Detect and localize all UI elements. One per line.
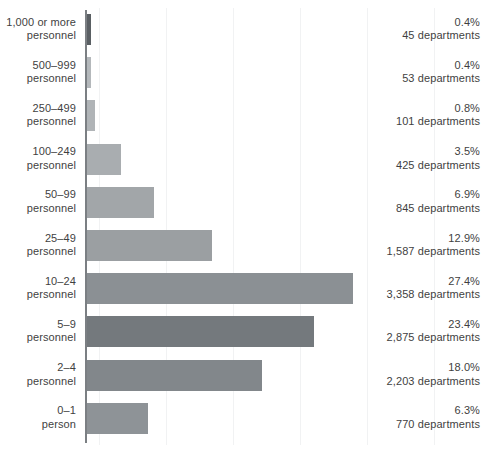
bar-row: 5–9personnel23.4%2,875 departments xyxy=(0,316,486,359)
bar-row: 2–4personnel18.0%2,203 departments xyxy=(0,360,486,403)
bar xyxy=(87,273,353,304)
category-label-line2: person xyxy=(0,418,76,432)
value-label: 27.4%3,358 departments xyxy=(387,275,480,302)
value-percent: 3.5% xyxy=(455,145,480,157)
category-label-line1: 1,000 or more xyxy=(6,16,76,28)
category-label-line2: personnel xyxy=(0,29,76,43)
category-label-line1: 25–49 xyxy=(45,232,76,244)
bar xyxy=(87,187,154,218)
value-percent: 12.9% xyxy=(448,232,480,244)
value-count: 845 departments xyxy=(396,202,480,216)
value-label: 0.8%101 departments xyxy=(396,102,480,129)
category-label-line2: personnel xyxy=(0,331,76,345)
category-label: 250–499personnel xyxy=(0,102,76,129)
category-label: 100–249personnel xyxy=(0,145,76,172)
value-percent: 0.4% xyxy=(455,16,480,28)
bar-row: 100–249personnel3.5%425 departments xyxy=(0,144,486,187)
value-percent: 0.8% xyxy=(455,102,480,114)
horizontal-bar-chart: 1,000 or morepersonnel0.4%45 departments… xyxy=(0,0,486,453)
bar-row: 10–24personnel27.4%3,358 departments xyxy=(0,273,486,316)
value-count: 45 departments xyxy=(402,29,480,43)
value-count: 101 departments xyxy=(396,115,480,129)
bar xyxy=(87,230,212,261)
value-label: 18.0%2,203 departments xyxy=(387,361,480,388)
value-count: 2,875 departments xyxy=(387,331,480,345)
value-count: 770 departments xyxy=(396,418,480,432)
category-label-line1: 0–1 xyxy=(57,404,76,416)
value-percent: 23.4% xyxy=(448,318,480,330)
value-count: 425 departments xyxy=(396,159,480,173)
category-label-line1: 250–499 xyxy=(32,102,76,114)
bar-rows: 1,000 or morepersonnel0.4%45 departments… xyxy=(0,0,486,453)
category-label: 25–49personnel xyxy=(0,232,76,259)
value-count: 2,203 departments xyxy=(387,375,480,389)
category-label: 1,000 or morepersonnel xyxy=(0,16,76,43)
value-count: 3,358 departments xyxy=(387,288,480,302)
category-label: 10–24personnel xyxy=(0,275,76,302)
category-label-line1: 500–999 xyxy=(32,59,76,71)
bar xyxy=(87,14,91,45)
value-label: 6.9%845 departments xyxy=(396,188,480,215)
category-label-line1: 50–99 xyxy=(45,188,76,200)
category-label: 50–99personnel xyxy=(0,188,76,215)
bar xyxy=(87,144,121,175)
value-label: 23.4%2,875 departments xyxy=(387,318,480,345)
value-label: 12.9%1,587 departments xyxy=(387,232,480,259)
value-count: 1,587 departments xyxy=(387,245,480,259)
bar xyxy=(87,360,262,391)
bar-row: 50–99personnel6.9%845 departments xyxy=(0,187,486,230)
category-label-line1: 2–4 xyxy=(57,361,76,373)
value-label: 0.4%53 departments xyxy=(402,59,480,86)
category-label-line2: personnel xyxy=(0,375,76,389)
bar xyxy=(87,57,91,88)
value-label: 6.3%770 departments xyxy=(396,404,480,431)
bar-row: 0–1person6.3%770 departments xyxy=(0,403,486,446)
bar-row: 1,000 or morepersonnel0.4%45 departments xyxy=(0,14,486,57)
bar-row: 250–499personnel0.8%101 departments xyxy=(0,100,486,143)
category-label: 0–1person xyxy=(0,404,76,431)
bar-row: 500–999personnel0.4%53 departments xyxy=(0,57,486,100)
category-label: 2–4personnel xyxy=(0,361,76,388)
category-label-line2: personnel xyxy=(0,288,76,302)
category-label-line2: personnel xyxy=(0,202,76,216)
category-label-line2: personnel xyxy=(0,159,76,173)
category-label-line2: personnel xyxy=(0,115,76,129)
value-percent: 18.0% xyxy=(448,361,480,373)
category-label-line1: 5–9 xyxy=(57,318,76,330)
value-percent: 6.9% xyxy=(455,188,480,200)
category-label-line2: personnel xyxy=(0,72,76,86)
category-label-line1: 100–249 xyxy=(32,145,76,157)
value-count: 53 departments xyxy=(402,72,480,86)
category-label-line2: personnel xyxy=(0,245,76,259)
category-label: 5–9personnel xyxy=(0,318,76,345)
value-percent: 6.3% xyxy=(455,404,480,416)
value-label: 3.5%425 departments xyxy=(396,145,480,172)
value-label: 0.4%45 departments xyxy=(402,16,480,43)
category-label: 500–999personnel xyxy=(0,59,76,86)
bar xyxy=(87,316,314,347)
bar xyxy=(87,100,95,131)
category-label-line1: 10–24 xyxy=(45,275,76,287)
bar xyxy=(87,403,148,434)
value-percent: 0.4% xyxy=(455,59,480,71)
bar-row: 25–49personnel12.9%1,587 departments xyxy=(0,230,486,273)
value-percent: 27.4% xyxy=(448,275,480,287)
